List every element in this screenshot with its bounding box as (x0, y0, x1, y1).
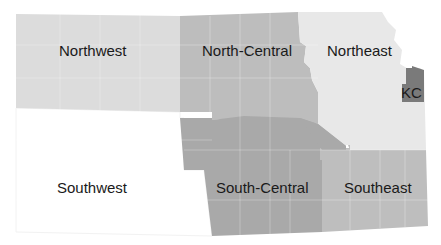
label-northeast: Northeast (327, 43, 392, 58)
label-north-central: North-Central (202, 43, 292, 58)
label-south-central: South-Central (216, 180, 309, 195)
label-southwest: Southwest (57, 180, 127, 195)
kansas-region-map (0, 0, 441, 245)
label-northwest: Northwest (59, 43, 127, 58)
region-northwest[interactable] (16, 14, 180, 112)
label-southeast: Southeast (344, 180, 412, 195)
label-kc: KC (401, 85, 422, 100)
region-north-central[interactable] (180, 12, 318, 124)
